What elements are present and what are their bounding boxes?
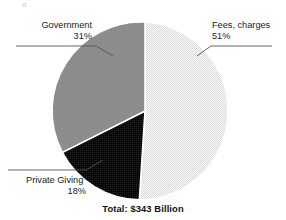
slice-label-private-giving-name: Private Giving <box>26 175 83 185</box>
slice-label-fees-charges: Fees, charges 51% <box>212 20 286 41</box>
footnote-asterisk: * <box>83 173 86 180</box>
slice-label-fees-charges-name: Fees, charges <box>212 20 270 30</box>
slice-label-government-name: Government <box>41 20 92 30</box>
slice-label-government-percent: 31% <box>12 31 92 42</box>
slice-label-private-giving: Private Giving* 18% <box>2 172 86 196</box>
pie-slice-fees-charges <box>139 22 228 200</box>
slice-label-fees-charges-percent: 51% <box>212 31 286 42</box>
slice-label-private-giving-percent: 18% <box>2 186 86 197</box>
chart-total-label: Total: $343 Billion <box>0 203 286 214</box>
pie-chart-figure: g , <box>0 0 286 220</box>
slice-label-government: Government 31% <box>12 20 92 41</box>
